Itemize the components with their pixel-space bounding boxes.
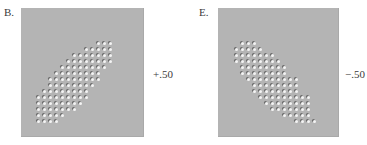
data-point <box>55 120 58 123</box>
data-point <box>97 60 100 63</box>
data-point <box>73 84 76 87</box>
data-point <box>265 66 268 69</box>
data-point <box>79 60 82 63</box>
data-point <box>271 90 274 93</box>
data-point <box>103 42 106 45</box>
data-point <box>265 60 268 63</box>
data-point <box>73 78 76 81</box>
data-point <box>235 54 238 57</box>
data-point <box>313 120 316 123</box>
data-point <box>271 96 274 99</box>
data-point <box>49 102 52 105</box>
data-point <box>301 102 304 105</box>
data-point <box>295 102 298 105</box>
data-point <box>259 90 262 93</box>
data-point <box>109 60 112 63</box>
data-point <box>43 120 46 123</box>
data-point <box>283 96 286 99</box>
data-point <box>73 96 76 99</box>
data-point <box>55 84 58 87</box>
data-point <box>97 48 100 51</box>
data-point <box>109 42 112 45</box>
data-point <box>49 108 52 111</box>
data-point <box>61 114 64 117</box>
data-point <box>85 48 88 51</box>
data-point <box>253 66 256 69</box>
data-point <box>85 90 88 93</box>
data-point <box>61 72 64 75</box>
data-point <box>91 48 94 51</box>
data-point <box>103 54 106 57</box>
data-point <box>109 48 112 51</box>
data-point <box>73 90 76 93</box>
data-point <box>259 84 262 87</box>
data-point <box>277 72 280 75</box>
data-point <box>55 72 58 75</box>
data-point <box>277 84 280 87</box>
data-point <box>43 102 46 105</box>
data-point <box>49 96 52 99</box>
data-point <box>283 72 286 75</box>
data-point <box>253 84 256 87</box>
data-point <box>295 120 298 123</box>
data-point <box>247 54 250 57</box>
data-point <box>265 102 268 105</box>
data-point <box>103 48 106 51</box>
data-point <box>259 60 262 63</box>
data-point <box>301 96 304 99</box>
data-point <box>271 54 274 57</box>
data-point <box>43 90 46 93</box>
data-point <box>277 90 280 93</box>
data-point <box>55 96 58 99</box>
data-point <box>289 84 292 87</box>
data-point <box>55 108 58 111</box>
data-point <box>307 96 310 99</box>
data-point <box>295 84 298 87</box>
data-point <box>61 84 64 87</box>
data-point <box>289 108 292 111</box>
data-point <box>241 66 244 69</box>
data-point <box>61 78 64 81</box>
data-point <box>103 60 106 63</box>
data-point <box>283 108 286 111</box>
data-point <box>79 90 82 93</box>
data-point <box>253 54 256 57</box>
data-point <box>67 78 70 81</box>
data-point <box>85 84 88 87</box>
data-point <box>97 72 100 75</box>
data-point <box>253 72 256 75</box>
data-point <box>85 66 88 69</box>
data-point <box>67 66 70 69</box>
data-point <box>79 78 82 81</box>
data-point <box>79 54 82 57</box>
data-point <box>97 66 100 69</box>
data-point <box>277 60 280 63</box>
data-point <box>91 66 94 69</box>
data-point <box>259 96 262 99</box>
data-point <box>301 114 304 117</box>
data-point <box>85 78 88 81</box>
data-point <box>67 84 70 87</box>
data-point <box>55 90 58 93</box>
data-point <box>289 90 292 93</box>
data-point <box>259 48 262 51</box>
data-point <box>259 66 262 69</box>
data-point <box>85 54 88 57</box>
data-point <box>91 84 94 87</box>
data-point <box>259 72 262 75</box>
data-point <box>295 78 298 81</box>
data-point <box>61 66 64 69</box>
data-point <box>289 78 292 81</box>
data-point <box>235 60 238 63</box>
data-point <box>37 108 40 111</box>
data-point <box>265 84 268 87</box>
data-point <box>277 102 280 105</box>
data-point <box>277 96 280 99</box>
data-point <box>73 60 76 63</box>
data-point <box>61 108 64 111</box>
data-point <box>271 78 274 81</box>
data-point <box>103 66 106 69</box>
data-point <box>301 120 304 123</box>
data-point <box>109 54 112 57</box>
data-point <box>283 102 286 105</box>
